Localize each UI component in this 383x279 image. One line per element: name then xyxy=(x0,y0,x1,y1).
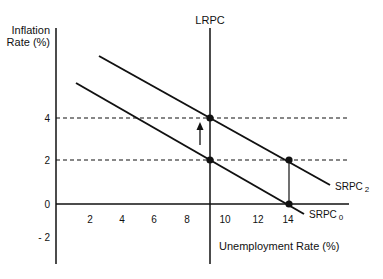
lrpc-label: LRPC xyxy=(195,14,224,26)
y-tick-neg2: - 2 xyxy=(38,232,50,243)
up-arrow-icon xyxy=(197,122,204,130)
x-tick-14: 14 xyxy=(282,214,294,225)
x-tick-10: 10 xyxy=(219,214,231,225)
point-14-0 xyxy=(285,200,292,207)
srpc2-line xyxy=(99,56,330,185)
point-14-2 xyxy=(285,156,292,163)
y-axis-label-line1: Inflation xyxy=(11,24,50,36)
phillips-curve-diagram: Inflation Rate (%) 4 2 0 - 2 2 4 6 8 10 … xyxy=(0,0,383,279)
srpc0-line xyxy=(76,83,304,214)
srpc0-label: SRPC0 xyxy=(309,209,344,222)
y-tick-2: 2 xyxy=(44,155,50,166)
x-tick-8: 8 xyxy=(184,214,190,225)
y-axis-label-line2: Rate (%) xyxy=(7,36,50,48)
y-tick-0: 0 xyxy=(44,199,50,210)
x-tick-2: 2 xyxy=(87,214,93,225)
srpc2-label: SRPC2 xyxy=(335,181,370,194)
point-lrpc-4 xyxy=(206,114,213,121)
x-tick-12: 12 xyxy=(252,214,264,225)
point-lrpc-2 xyxy=(206,156,213,163)
x-tick-6: 6 xyxy=(151,214,157,225)
x-tick-4: 4 xyxy=(119,214,125,225)
y-tick-4: 4 xyxy=(44,113,50,124)
x-axis-label: Unemployment Rate (%) xyxy=(219,240,339,252)
